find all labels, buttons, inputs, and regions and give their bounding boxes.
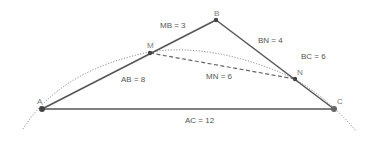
point-label-a: A (37, 97, 43, 106)
point-label-m: M (147, 41, 154, 50)
label-ab: AB = 8 (121, 75, 146, 84)
segment-bc (216, 20, 334, 109)
point-m[interactable] (148, 51, 152, 55)
point-label-n: N (297, 68, 303, 77)
label-mn: MN = 6 (206, 72, 233, 81)
geometry-canvas: A B M N C MB = 3 AB = 8 BN = 4 BC = 6 MN… (0, 0, 371, 142)
point-c[interactable] (331, 106, 337, 112)
point-label-b: B (214, 9, 219, 18)
label-ac: AC = 12 (185, 116, 215, 125)
label-bc: BC = 6 (301, 52, 326, 61)
point-label-c: C (337, 97, 343, 106)
point-b[interactable] (214, 18, 218, 22)
point-n[interactable] (293, 77, 297, 81)
segment-ab (42, 20, 216, 109)
label-bn: BN = 4 (258, 36, 283, 45)
label-mb: MB = 3 (160, 21, 186, 30)
point-a[interactable] (39, 106, 45, 112)
